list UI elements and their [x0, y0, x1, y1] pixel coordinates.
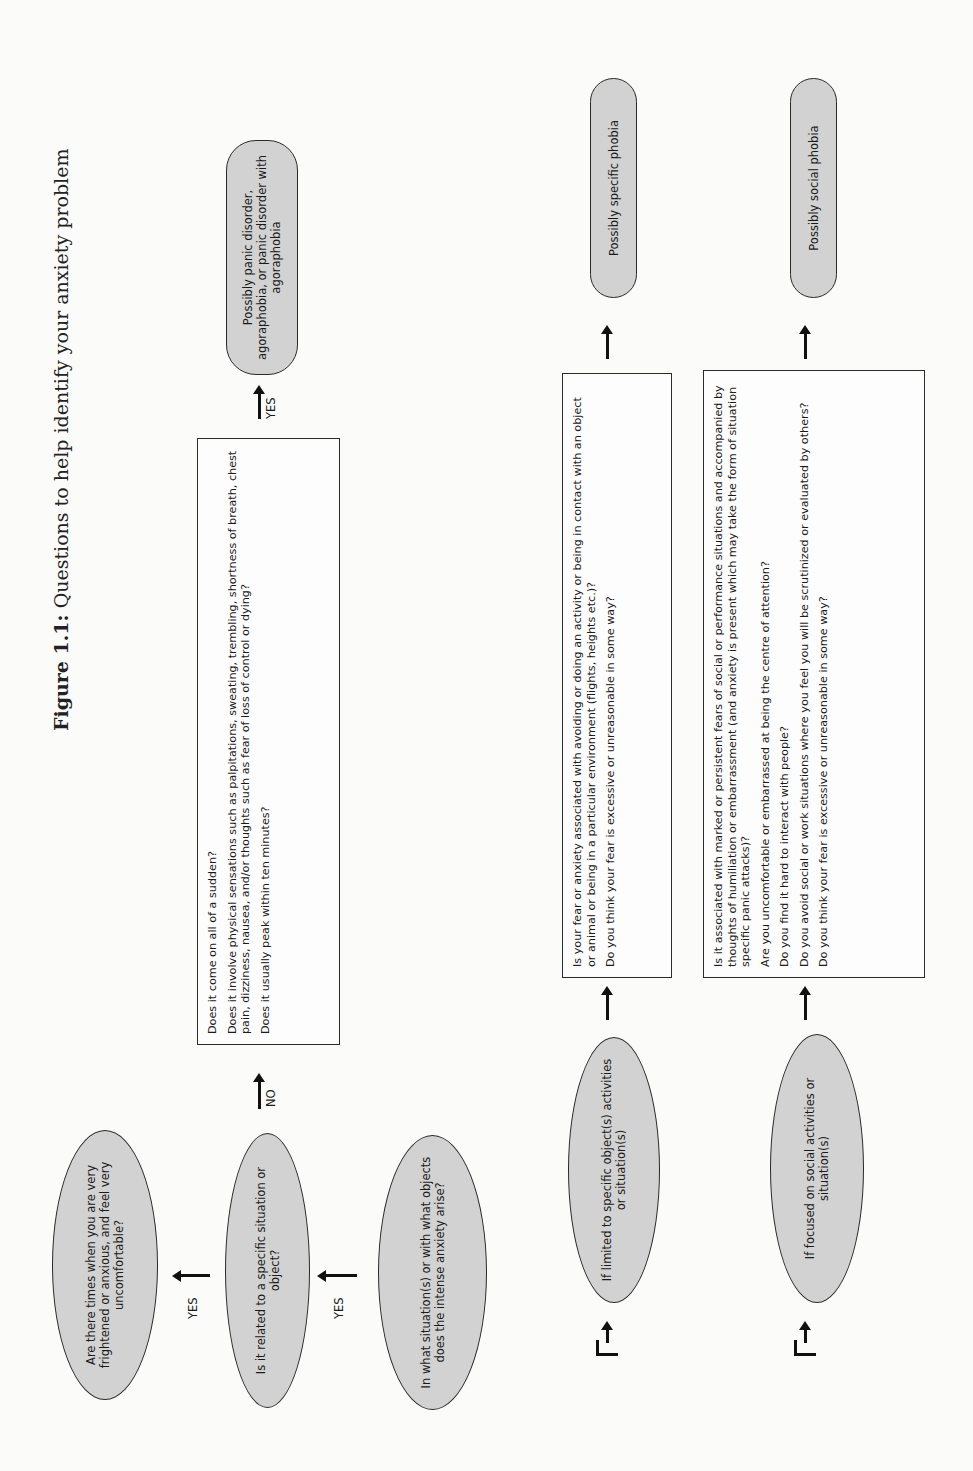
- panic-questions-box: Does it come on all of a sudden? Does it…: [197, 438, 340, 1045]
- yes-arrow-3: [258, 393, 261, 419]
- social-outcome-pill: Possibly social phobia: [790, 78, 837, 298]
- specific-question: Is your fear or anxiety associated with …: [571, 384, 598, 967]
- specific-questions-box: Is your fear or anxiety associated with …: [562, 373, 672, 978]
- arrow-to-specific-box: [606, 994, 609, 1020]
- arrow-to-social-box: [804, 994, 807, 1020]
- focused-text: If focused on social activities or situa…: [803, 1055, 831, 1282]
- start-question-text: Are there times when you are very fright…: [84, 1151, 126, 1379]
- which-situation-oval: In what situation(s) or with what object…: [378, 1135, 487, 1410]
- limited-text: If limited to specific object(s) activit…: [600, 1058, 628, 1282]
- figure-title: Figure 1.1: Questions to help identify y…: [50, 251, 72, 731]
- panic-question: Does it usually peak within ten minutes?: [259, 449, 273, 1034]
- specific-outcome-pill: Possibly specific phobia: [590, 78, 637, 298]
- yes-arrow-1: [180, 1274, 210, 1277]
- social-outcome-text: Possibly social phobia: [807, 125, 821, 250]
- related-question-oval: Is it related to a specific situation or…: [225, 1133, 310, 1408]
- panic-question: Does it involve physical sensations such…: [226, 449, 253, 1034]
- specific-outcome-text: Possibly specific phobia: [607, 120, 621, 256]
- figure-number: Figure 1.1:: [50, 614, 72, 731]
- yes-label-1: YES: [186, 1297, 200, 1319]
- yes-arrow-2: [325, 1274, 357, 1277]
- connector-social-v: [794, 1353, 816, 1356]
- yes-label-2: YES: [332, 1297, 346, 1319]
- start-question-oval: Are there times when you are very fright…: [52, 1130, 158, 1400]
- limited-oval: If limited to specific object(s) activit…: [568, 1037, 660, 1303]
- social-question: Are you uncomfortable or embarrassed at …: [759, 381, 773, 967]
- panic-outcome-text: Possibly panic disorder, agoraphobia, or…: [241, 153, 283, 362]
- arrow-to-focused: [804, 1329, 807, 1343]
- arrow-to-specific-outcome: [606, 333, 609, 359]
- connector-specific-h: [596, 1340, 599, 1356]
- which-situation-text: In what situation(s) or with what object…: [419, 1156, 447, 1389]
- arrow-to-limited: [606, 1329, 609, 1343]
- figure-caption: Questions to help identify your anxiety …: [50, 149, 72, 615]
- connector-social-h: [794, 1340, 797, 1356]
- social-question: Do you avoid social or work situations w…: [798, 381, 812, 967]
- yes-label-3: YES: [264, 397, 278, 419]
- specific-question: Do you think your fear is excessive or u…: [604, 384, 618, 967]
- connector-specific-v: [596, 1353, 618, 1356]
- social-question: Do you find it hard to interact with peo…: [778, 381, 792, 967]
- flowchart-canvas: Figure 1.1: Questions to help identify y…: [0, 0, 973, 1471]
- social-question: Do you think your fear is excessive or u…: [817, 381, 831, 967]
- social-question: Is it associated with marked or persiste…: [712, 381, 753, 967]
- social-questions-box: Is it associated with marked or persiste…: [703, 370, 925, 978]
- panic-outcome-pill: Possibly panic disorder, agoraphobia, or…: [226, 140, 298, 375]
- arrow-to-social-outcome: [804, 333, 807, 359]
- related-question-text: Is it related to a specific situation or…: [254, 1154, 282, 1387]
- panic-question: Does it come on all of a sudden?: [206, 449, 220, 1034]
- no-label: NO: [264, 1089, 278, 1107]
- focused-oval: If focused on social activities or situa…: [770, 1034, 864, 1303]
- no-arrow: [258, 1081, 261, 1109]
